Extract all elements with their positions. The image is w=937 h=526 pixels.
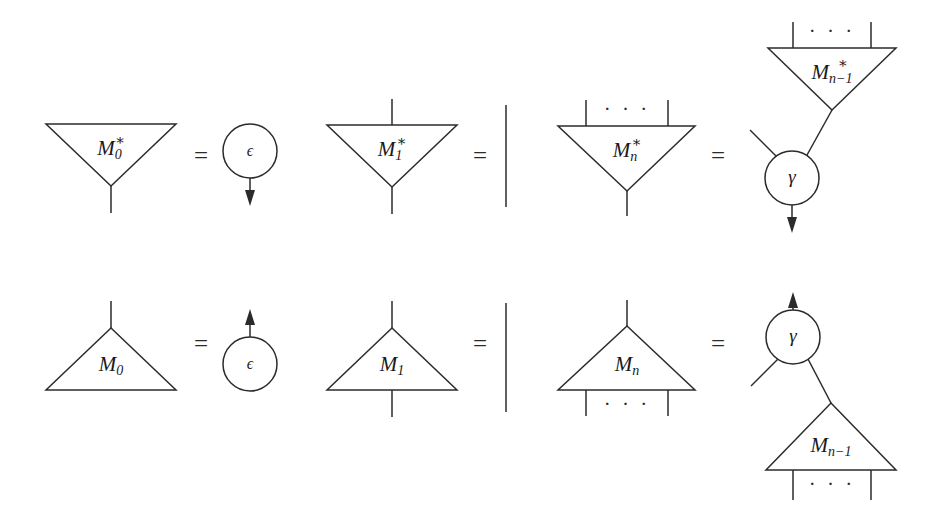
label-m0-sub: 0 bbox=[116, 363, 123, 378]
arrowhead-down-epsilon-top bbox=[245, 190, 255, 206]
equation-m0: M0 = ϵ bbox=[46, 301, 277, 391]
label-m1-star-superscript: ∗ bbox=[396, 133, 406, 149]
label-mn-star-base: M bbox=[612, 138, 632, 162]
equation-m1-star: M1∗ = bbox=[327, 99, 506, 214]
label-mn1-base: M bbox=[810, 433, 830, 457]
label-m0-star-sub: 0 bbox=[115, 147, 122, 162]
label-mn-base: M bbox=[614, 352, 634, 376]
diagram-canvas: M0∗ = ϵ M1∗ = · · · Mn∗ bbox=[0, 0, 937, 526]
equation-mn: Mn · · · = γ Mn−1 · · · bbox=[558, 292, 896, 500]
label-gamma-bottom: γ bbox=[789, 325, 797, 346]
wire-gamma-bottom-to-mn1 bbox=[808, 359, 831, 403]
equation-mn-star: · · · Mn∗ = · · · Mn−1∗ γ bbox=[558, 19, 896, 233]
label-m0-star-base: M bbox=[96, 136, 116, 160]
ellipsis-mn-outputs: · · · bbox=[604, 392, 650, 416]
label-mn-star: Mn∗ bbox=[612, 134, 642, 164]
label-m1-star: M1∗ bbox=[377, 133, 407, 163]
label-epsilon-bottom: ϵ bbox=[247, 355, 254, 372]
label-gamma-top: γ bbox=[788, 166, 796, 187]
ellipsis-mn1-outputs: · · · bbox=[809, 472, 855, 496]
label-mn1-star-base: M bbox=[811, 60, 831, 84]
label-m1-star-base: M bbox=[377, 137, 397, 161]
string-diagram-figure: M0∗ = ϵ M1∗ = · · · Mn∗ bbox=[0, 0, 937, 526]
equals-mn-star: = bbox=[711, 142, 725, 169]
wire-gamma-bottom-left-output bbox=[751, 359, 778, 386]
equals-mn: = bbox=[711, 330, 725, 357]
label-m0-base: M bbox=[98, 352, 118, 376]
wire-mn1-star-to-gamma bbox=[807, 110, 832, 155]
equals-m1-star: = bbox=[473, 142, 487, 169]
label-m1-star-sub: 1 bbox=[395, 148, 402, 163]
label-m1-base: M bbox=[379, 352, 399, 376]
label-epsilon-top: ϵ bbox=[247, 142, 254, 159]
wire-gamma-top-left-input bbox=[750, 130, 777, 157]
label-m1-sub: 1 bbox=[397, 363, 404, 378]
triangle-mn1 bbox=[766, 403, 896, 470]
label-mn1-star-superscript: ∗ bbox=[837, 55, 847, 71]
label-mn-sub: n bbox=[632, 363, 639, 378]
label-mn1-star-sub: n−1 bbox=[829, 71, 852, 86]
ellipsis-mn-star-inputs: · · · bbox=[604, 97, 650, 121]
equals-m1: = bbox=[473, 330, 487, 357]
ellipsis-mn1-star-inputs: · · · bbox=[809, 19, 855, 43]
label-mn1-sub: n−1 bbox=[828, 444, 851, 459]
equals-m0: = bbox=[194, 330, 208, 357]
equation-m1: M1 = bbox=[327, 301, 506, 417]
label-mn-star-superscript: ∗ bbox=[631, 134, 641, 150]
arrowhead-down-gamma-top bbox=[787, 217, 797, 233]
label-m0-star: M0∗ bbox=[96, 132, 125, 162]
arrowhead-up-epsilon-bottom bbox=[245, 309, 255, 325]
equation-m0-star: M0∗ = ϵ bbox=[46, 124, 277, 213]
label-mn-star-sub: n bbox=[630, 149, 637, 164]
label-m0-star-superscript: ∗ bbox=[115, 132, 125, 148]
equals-m0-star: = bbox=[194, 142, 208, 169]
